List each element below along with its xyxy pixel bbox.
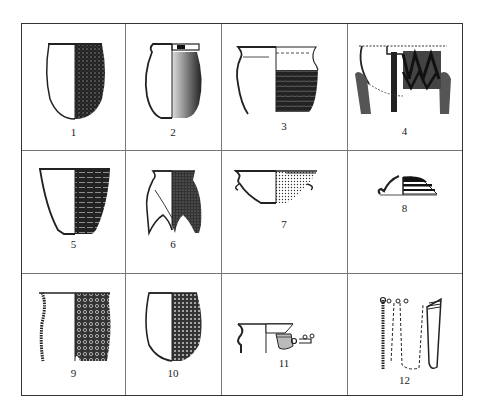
figure-number: 12 bbox=[347, 374, 462, 386]
figure-number: 10 bbox=[125, 367, 221, 379]
figure-number: 6 bbox=[125, 238, 221, 250]
li-tripod-icon bbox=[125, 150, 221, 273]
cell-6: 6 bbox=[125, 150, 221, 273]
cell-7: 7 bbox=[221, 150, 347, 273]
pottery-plate-grid: 1 2 3 bbox=[21, 23, 463, 396]
cell-11: 11 bbox=[221, 273, 347, 395]
basin-icon bbox=[221, 150, 347, 273]
figure-number: 3 bbox=[221, 120, 347, 132]
cell-9: 9 bbox=[22, 273, 125, 395]
figure-number: 8 bbox=[347, 202, 462, 214]
figure-number: 2 bbox=[125, 126, 221, 138]
figure-number: 9 bbox=[22, 367, 125, 379]
deep-bowl-icon bbox=[22, 150, 125, 273]
cell-1: 1 bbox=[22, 24, 125, 150]
figure-number: 5 bbox=[22, 238, 125, 250]
cell-3: 3 bbox=[221, 24, 347, 150]
figure-number: 7 bbox=[221, 218, 347, 230]
cell-2: 2 bbox=[125, 24, 221, 150]
figure-number: 11 bbox=[221, 357, 347, 369]
figure-number: 4 bbox=[347, 125, 462, 137]
figure-number: 1 bbox=[22, 126, 125, 138]
cell-12: 12 bbox=[347, 273, 462, 395]
cell-8: 8 bbox=[347, 150, 462, 273]
cell-4: 4 bbox=[347, 24, 462, 150]
rim-fragment-icon bbox=[221, 273, 347, 395]
cell-5: 5 bbox=[22, 150, 125, 273]
cell-10: 10 bbox=[125, 273, 221, 395]
